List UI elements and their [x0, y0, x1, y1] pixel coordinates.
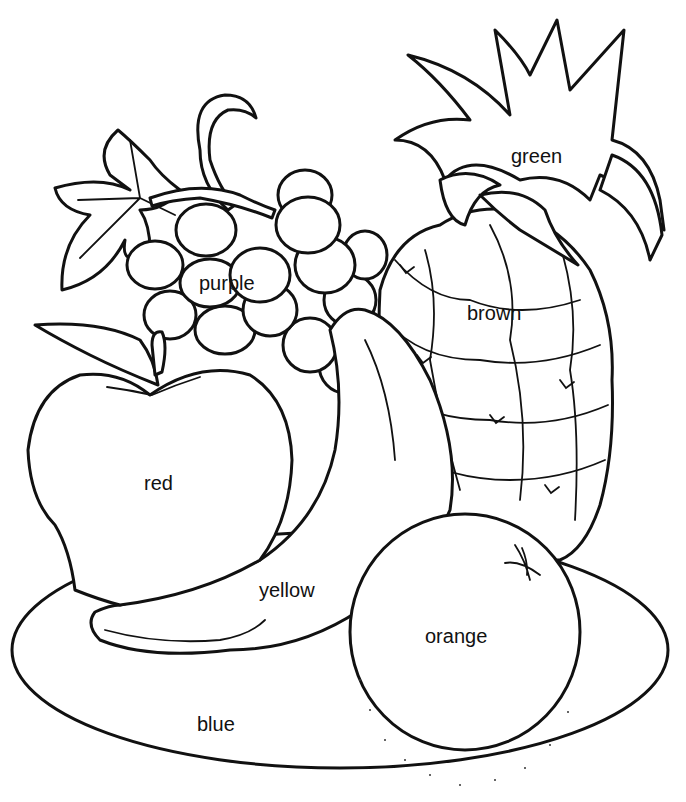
- label-blue: blue: [197, 714, 235, 734]
- label-brown: brown: [467, 303, 521, 323]
- coloring-page: green purple brown red yellow orange blu…: [0, 0, 686, 802]
- apple-stem: [152, 332, 165, 375]
- label-red: red: [144, 473, 173, 493]
- label-purple: purple: [199, 273, 255, 293]
- label-orange: orange: [425, 626, 487, 646]
- label-yellow: yellow: [259, 580, 315, 600]
- label-green: green: [511, 146, 562, 166]
- fruit-drawing: [0, 0, 686, 802]
